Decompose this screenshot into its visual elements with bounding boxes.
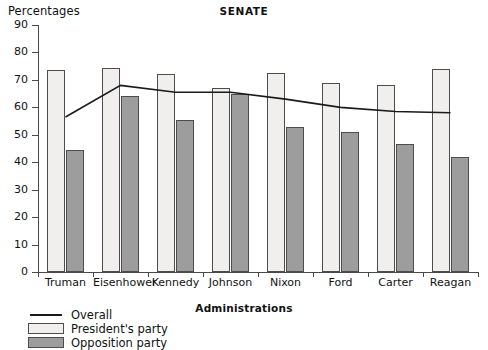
legend-label: Overall	[71, 308, 112, 322]
y-tick-label: 0	[2, 265, 28, 278]
y-tick-label: 30	[2, 183, 28, 196]
dark-swatch-icon	[28, 337, 64, 348]
x-category-label: Kennedy	[148, 276, 203, 289]
legend-item-overall: Overall	[28, 308, 168, 321]
y-tick-label: 70	[2, 73, 28, 86]
x-category-label: Reagan	[423, 276, 478, 289]
line-marker-icon	[28, 309, 64, 320]
legend-label: President's party	[71, 322, 168, 336]
legend-label: Opposition party	[71, 336, 167, 350]
chart-title: SENATE	[0, 5, 488, 17]
x-category-label: Nixon	[258, 276, 313, 289]
y-tick-label: 80	[2, 45, 28, 58]
y-tick-label: 50	[2, 128, 28, 141]
x-tick	[478, 272, 479, 277]
legend: Overall President's party Opposition par…	[28, 308, 168, 350]
y-tick-label: 10	[2, 238, 28, 251]
legend-item-presidents-party: President's party	[28, 322, 168, 335]
x-category-label: Johnson	[203, 276, 258, 289]
senate-bar-chart: Percentages SENATE 0102030405060708090 T…	[0, 0, 488, 350]
overall-polyline	[66, 85, 451, 117]
overall-line-series	[38, 25, 478, 272]
x-category-label: Eisenhower	[93, 276, 148, 289]
y-tick-label: 60	[2, 100, 28, 113]
y-tick-label: 90	[2, 18, 28, 31]
x-category-label: Truman	[38, 276, 93, 289]
y-tick-label: 20	[2, 210, 28, 223]
x-category-label: Ford	[313, 276, 368, 289]
light-swatch-icon	[28, 323, 64, 334]
legend-item-opposition-party: Opposition party	[28, 336, 168, 349]
y-tick-label: 40	[2, 155, 28, 168]
x-category-label: Carter	[368, 276, 423, 289]
